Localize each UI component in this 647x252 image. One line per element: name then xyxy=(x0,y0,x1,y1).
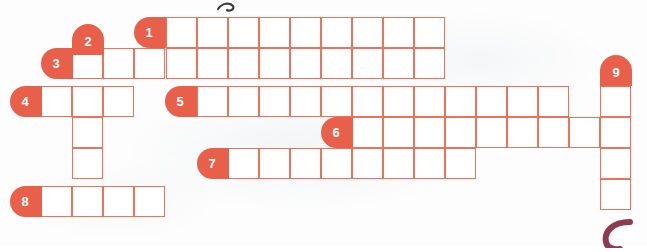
crossword-cell[interactable] xyxy=(72,186,103,217)
crossword-cell[interactable] xyxy=(321,48,352,79)
crossword-cell[interactable] xyxy=(103,186,134,217)
crossword-cell[interactable] xyxy=(383,17,414,48)
stray-ink-mark-top xyxy=(214,0,240,14)
clue-number-9[interactable]: 9 xyxy=(600,55,632,86)
crossword-cell[interactable] xyxy=(134,186,165,217)
clue-number-3[interactable]: 3 xyxy=(41,48,73,79)
crossword-cell[interactable] xyxy=(538,117,569,148)
crossword-cell[interactable] xyxy=(103,86,134,117)
crossword-cell[interactable] xyxy=(259,17,290,48)
crossword-cell[interactable] xyxy=(228,86,259,117)
crossword-cell[interactable] xyxy=(352,17,383,48)
crossword-cell[interactable] xyxy=(166,48,197,79)
crossword-cell[interactable] xyxy=(445,117,476,148)
crossword-cell[interactable] xyxy=(228,48,259,79)
crossword-cell[interactable] xyxy=(600,117,631,148)
crossword-cell[interactable] xyxy=(383,117,414,148)
page-number-decoration: 103 xyxy=(596,218,647,248)
crossword-cell[interactable] xyxy=(290,148,321,179)
crossword-cell[interactable] xyxy=(41,186,72,217)
crossword-cell[interactable] xyxy=(383,148,414,179)
crossword-cell[interactable] xyxy=(321,86,352,117)
crossword-cell[interactable] xyxy=(414,17,445,48)
crossword-cell[interactable] xyxy=(569,117,600,148)
crossword-cell[interactable] xyxy=(290,48,321,79)
crossword-cell[interactable] xyxy=(414,117,445,148)
crossword-cell[interactable] xyxy=(228,148,259,179)
crossword-cell[interactable] xyxy=(259,48,290,79)
crossword-cell[interactable] xyxy=(352,117,383,148)
clue-number-1[interactable]: 1 xyxy=(134,17,166,48)
crossword-cell[interactable] xyxy=(352,86,383,117)
crossword-cell[interactable] xyxy=(321,148,352,179)
crossword-cell[interactable] xyxy=(445,148,476,179)
crossword-cell[interactable] xyxy=(445,86,476,117)
crossword-cell[interactable] xyxy=(538,86,569,117)
crossword-cell[interactable] xyxy=(259,86,290,117)
crossword-cell[interactable] xyxy=(600,179,631,210)
clue-number-6[interactable]: 6 xyxy=(321,117,353,148)
clue-number-4[interactable]: 4 xyxy=(10,86,42,117)
clue-number-5[interactable]: 5 xyxy=(165,86,197,117)
clue-number-2[interactable]: 2 xyxy=(72,24,104,55)
crossword-cell[interactable] xyxy=(228,17,259,48)
crossword-cell[interactable] xyxy=(414,86,445,117)
crossword-cell[interactable] xyxy=(166,17,197,48)
crossword-cell[interactable] xyxy=(383,86,414,117)
crossword-cell[interactable] xyxy=(41,86,72,117)
crossword-cell[interactable] xyxy=(507,117,538,148)
crossword-cell[interactable] xyxy=(414,48,445,79)
crossword-cell[interactable] xyxy=(103,48,134,79)
crossword-cell[interactable] xyxy=(600,86,631,117)
crossword-cell[interactable] xyxy=(600,148,631,179)
crossword-cell[interactable] xyxy=(290,86,321,117)
clue-number-8[interactable]: 8 xyxy=(10,186,42,217)
crossword-cell[interactable] xyxy=(414,148,445,179)
crossword-cell[interactable] xyxy=(259,148,290,179)
crossword-cell[interactable] xyxy=(476,117,507,148)
page-number-text: 103 xyxy=(618,230,636,242)
crossword-cell[interactable] xyxy=(352,48,383,79)
crossword-cell[interactable] xyxy=(352,148,383,179)
crossword-cell[interactable] xyxy=(321,17,352,48)
crossword-cell[interactable] xyxy=(72,148,103,179)
crossword-cell[interactable] xyxy=(290,17,321,48)
crossword-cell[interactable] xyxy=(197,86,228,117)
crossword-cell[interactable] xyxy=(72,117,103,148)
crossword-cell[interactable] xyxy=(197,17,228,48)
crossword-cell[interactable] xyxy=(476,86,507,117)
crossword-cell[interactable] xyxy=(383,48,414,79)
clue-number-7[interactable]: 7 xyxy=(197,148,229,179)
crossword-cell[interactable] xyxy=(72,86,103,117)
crossword-cell[interactable] xyxy=(134,48,165,79)
crossword-cell[interactable] xyxy=(507,86,538,117)
crossword-cell[interactable] xyxy=(197,48,228,79)
